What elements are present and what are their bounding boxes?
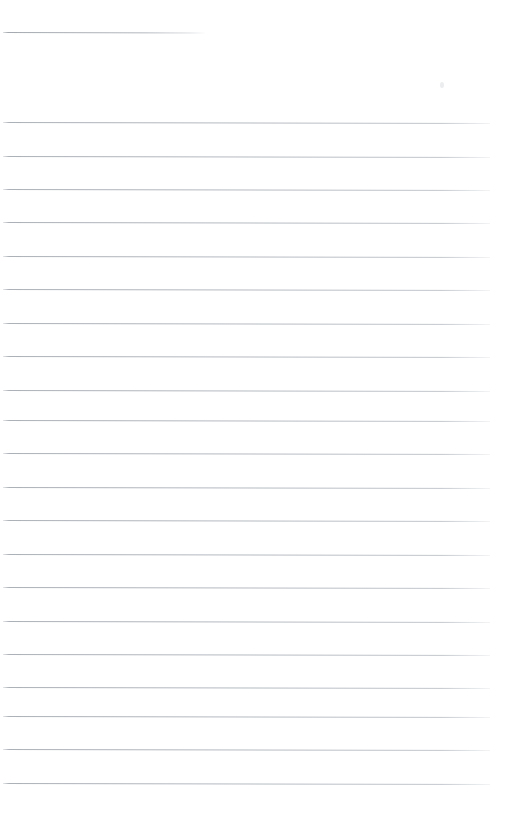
ruled-line [3, 687, 490, 689]
ruled-line [3, 654, 490, 656]
ruled-line [3, 783, 490, 785]
ruled-line [3, 256, 490, 258]
ruled-line [3, 390, 490, 392]
ruled-line [3, 356, 490, 358]
ruled-line [3, 554, 490, 556]
ruled-line [3, 716, 490, 718]
ruled-line [3, 122, 490, 124]
ruled-line [3, 587, 490, 589]
ruled-line [3, 156, 490, 158]
ruled-line [3, 323, 490, 325]
scanned-page [0, 0, 506, 830]
ruled-line [3, 420, 490, 422]
header-rule [3, 32, 205, 33]
ruled-line [3, 749, 490, 751]
ruled-line [3, 520, 490, 522]
scan-speck-icon [440, 82, 444, 88]
ruled-line [3, 222, 490, 224]
ruled-line [3, 487, 490, 489]
ruled-line [3, 289, 490, 291]
ruled-line [3, 189, 490, 191]
ruled-line [3, 621, 490, 623]
ruled-line [3, 453, 490, 455]
